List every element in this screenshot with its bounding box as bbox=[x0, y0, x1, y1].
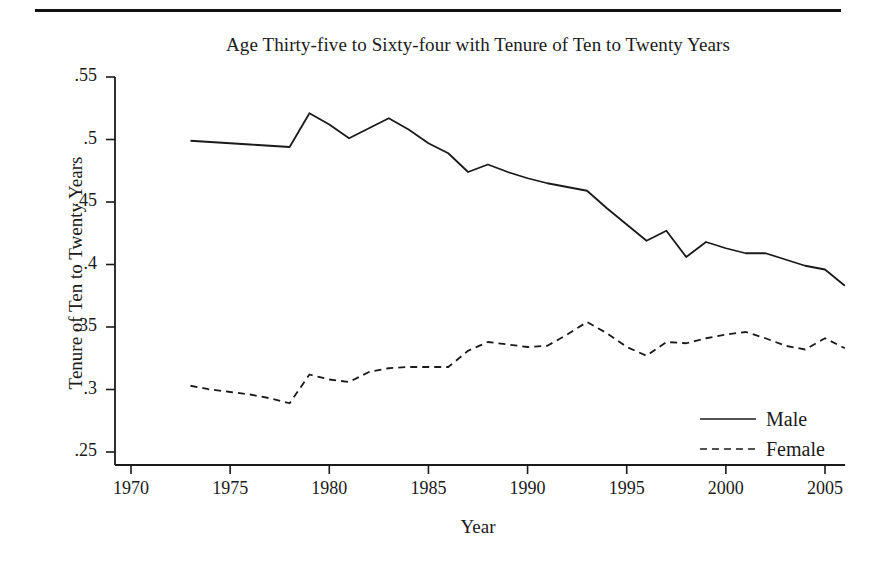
legend-label-male: Male bbox=[766, 409, 807, 429]
x-tick-label: 1995 bbox=[592, 478, 662, 499]
x-tick-label: 1980 bbox=[294, 478, 364, 499]
figure-container: Age Thirty-five to Sixty-four with Tenur… bbox=[0, 0, 876, 574]
legend-item-male: Male bbox=[700, 404, 825, 434]
data-series-group bbox=[190, 113, 844, 403]
solid-line-icon bbox=[700, 414, 756, 424]
legend: Male Female bbox=[700, 404, 825, 464]
x-tick-label: 1970 bbox=[96, 478, 166, 499]
x-tick-marks bbox=[131, 465, 825, 474]
x-tick-label: 1975 bbox=[195, 478, 265, 499]
y-tick-marks bbox=[106, 77, 115, 452]
legend-item-female: Female bbox=[700, 434, 825, 464]
y-tick-label: .35 bbox=[45, 315, 97, 336]
y-tick-label: .5 bbox=[45, 128, 97, 149]
y-tick-label: .45 bbox=[45, 190, 97, 211]
x-tick-label: 2000 bbox=[691, 478, 761, 499]
dashed-line-icon bbox=[700, 444, 756, 454]
x-tick-label: 2005 bbox=[790, 478, 860, 499]
y-tick-label: .4 bbox=[45, 253, 97, 274]
series-line-female bbox=[190, 322, 844, 403]
y-tick-label: .25 bbox=[45, 440, 97, 461]
y-tick-label: .3 bbox=[45, 378, 97, 399]
legend-label-female: Female bbox=[766, 439, 825, 459]
x-tick-label: 1990 bbox=[493, 478, 563, 499]
series-line-male bbox=[190, 113, 844, 286]
x-tick-label: 1985 bbox=[393, 478, 463, 499]
y-tick-label: .55 bbox=[45, 65, 97, 86]
